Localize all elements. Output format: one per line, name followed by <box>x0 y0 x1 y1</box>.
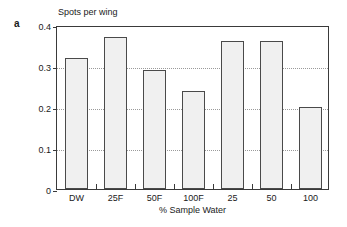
y-axis-tick-label: 0 <box>46 187 51 196</box>
bar-series <box>57 27 328 189</box>
y-axis-tick-label: 0.3 <box>38 64 51 73</box>
y-axis-tick-label: 0.2 <box>38 105 51 114</box>
x-axis-tick <box>213 184 214 189</box>
x-axis-tick-label: 25F <box>108 193 124 203</box>
bar <box>65 58 88 189</box>
x-axis-tick <box>96 184 97 189</box>
x-axis-tick-label: DW <box>69 193 84 203</box>
x-axis-tick-label: 50 <box>266 193 276 203</box>
bar <box>299 107 322 189</box>
y-axis-tick-label: 0.1 <box>38 146 51 155</box>
bar <box>104 37 127 189</box>
x-axis-tick-label: 100 <box>303 193 318 203</box>
x-axis-tick <box>174 184 175 189</box>
x-axis-tick <box>291 184 292 189</box>
bar <box>221 41 244 189</box>
plot-title: Spots per wing <box>58 7 118 17</box>
x-axis-tick-label: 25 <box>227 193 237 203</box>
bar <box>182 91 205 189</box>
plot-area: 00.10.20.30.4 DW25F50F100F2550100 <box>56 26 329 190</box>
y-axis-tick <box>53 191 57 192</box>
bar <box>143 70 166 189</box>
panel-label: a <box>14 19 20 29</box>
x-axis-tick-label: 100F <box>183 193 204 203</box>
figure: a Spots per wing 00.10.20.30.4 DW25F50F1… <box>0 0 347 227</box>
bar <box>260 41 283 189</box>
x-axis-tick <box>252 184 253 189</box>
y-axis-tick-label: 0.4 <box>38 23 51 32</box>
x-axis-title: % Sample Water <box>56 205 329 215</box>
x-axis-tick <box>135 184 136 189</box>
x-axis-tick-label: 50F <box>147 193 163 203</box>
